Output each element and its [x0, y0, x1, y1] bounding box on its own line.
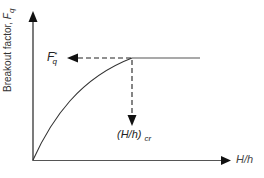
down-arrow-icon [128, 115, 137, 126]
y-axis-label: Breakout factor, Fq [2, 9, 16, 92]
x-axis-label: H/h [236, 153, 253, 165]
critical-ratio-text: (H/h) [117, 128, 141, 140]
plateau-subscript: q [52, 57, 56, 66]
diagram-canvas [0, 0, 264, 178]
y-axis-symbol: F [2, 13, 13, 19]
y-axis-label-text: Breakout factor, [2, 19, 13, 92]
left-arrow-icon [67, 54, 78, 63]
breakout-curve [33, 58, 132, 160]
critical-ratio-label: (H/h) cr [117, 128, 151, 143]
critical-ratio-subscript: cr [145, 134, 152, 143]
y-axis-arrow-icon [29, 11, 38, 22]
y-axis-subscript: q [7, 9, 16, 13]
x-axis-arrow-icon [221, 156, 231, 165]
plateau-value-label: F*q [47, 50, 57, 66]
